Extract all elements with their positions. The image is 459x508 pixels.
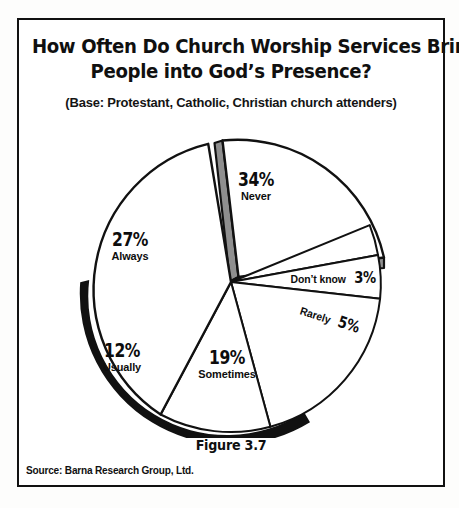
- pie-chart: 34% Never 27% Always 12% Usually 19% Som…: [17, 118, 445, 438]
- title-line-1: How Often Do Church Worship Services Bri…: [32, 34, 430, 59]
- page-title: How Often Do Church Worship Services Bri…: [17, 34, 445, 84]
- figure-page: How Often Do Church Worship Services Bri…: [0, 0, 459, 508]
- title-line-2: People into God’s Presence?: [32, 59, 430, 84]
- source-note: Source: Barna Research Group, Ltd.: [26, 464, 194, 476]
- figure-caption: Figure 3.7: [43, 437, 420, 453]
- chart-subtitle: (Base: Protestant, Catholic, Christian c…: [26, 95, 437, 110]
- pie-chart-svg: [17, 118, 445, 438]
